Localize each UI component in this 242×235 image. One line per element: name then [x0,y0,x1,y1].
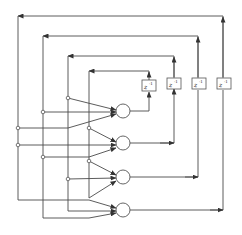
inputs-node-1 [18,98,116,128]
delay-block-4: z -1 [217,78,231,89]
inputs-node-3 [68,161,116,198]
summation-node-4 [116,203,130,217]
output-line-2 [130,90,174,143]
delay-exponent: -1 [199,79,203,84]
delay-exponent: -1 [174,79,178,84]
tap-points [16,96,91,181]
inputs-node-2 [18,128,116,157]
output-line-3 [130,90,198,177]
summation-node-1 [116,104,130,118]
block-diagram: z -1 z -1 z -1 z -1 [0,0,242,235]
delay-exponent: -1 [149,81,153,86]
output-line-4 [130,90,223,210]
delay-block-2: z -1 [167,78,181,89]
feedback-loop-3 [43,36,198,218]
output-line-1 [130,92,149,111]
delay-exponent: -1 [224,79,228,84]
summation-node-3 [116,170,130,184]
delay-block-1: z -1 [142,80,156,91]
inputs-node-4 [18,200,116,218]
summation-node-2 [116,136,130,150]
delay-block-3: z -1 [192,78,206,89]
